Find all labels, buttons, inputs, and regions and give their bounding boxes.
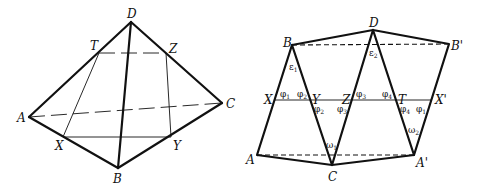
section-ZY xyxy=(166,53,171,137)
edge-DC xyxy=(131,22,222,103)
label-D: D xyxy=(126,7,137,21)
edge-AC-hidden xyxy=(29,103,222,117)
edge-DB xyxy=(118,22,131,168)
angle-phi-1-right: φ1 xyxy=(416,104,426,115)
angle-epsilon-1: ε1 xyxy=(289,62,298,73)
label-X-prime: X' xyxy=(434,93,447,107)
angle-omega-1: ω1 xyxy=(326,140,337,151)
edge-CD xyxy=(332,30,373,165)
label-C: C xyxy=(226,97,235,111)
label-Z: Z xyxy=(168,42,178,56)
edge-DA-prime xyxy=(373,30,414,155)
angle-phi-4-upper: φ4 xyxy=(382,89,392,100)
chord-BB-prime xyxy=(292,44,449,45)
label-B: B xyxy=(112,172,122,186)
label-X: X xyxy=(54,139,64,153)
label-A: A xyxy=(245,153,255,167)
label-X: X xyxy=(263,93,273,107)
label-C: C xyxy=(328,170,337,184)
section-TX xyxy=(63,53,99,137)
label-B-prime: B' xyxy=(450,39,463,53)
label-B: B xyxy=(282,36,292,50)
angle-phi-2-lower: φ2 xyxy=(314,104,324,115)
edge-DA xyxy=(29,22,131,117)
angle-omega-2: ω2 xyxy=(408,125,419,136)
edge-AB xyxy=(29,117,118,168)
label-A: A xyxy=(16,111,26,125)
tetrahedron-figure: D T Z A C X Y B xyxy=(16,7,235,186)
net-figure: D B B' X Y Z T X' A C A' ε1 ε2 φ1 φ2 φ2 … xyxy=(245,16,463,184)
label-T: T xyxy=(90,39,99,53)
angle-phi-2-upper: φ2 xyxy=(297,89,307,100)
angle-epsilon-2: ε2 xyxy=(369,48,378,59)
angle-phi-4-lower: φ4 xyxy=(400,104,410,115)
angle-phi-3-upper: φ3 xyxy=(356,89,366,100)
angle-phi-1-left: φ1 xyxy=(280,89,290,100)
label-A-prime: A' xyxy=(415,156,428,170)
diagram-canvas: D T Z A C X Y B D B B' X Y Z T X' A C A'… xyxy=(0,0,477,189)
label-Y: Y xyxy=(173,139,182,153)
label-D: D xyxy=(368,16,379,30)
